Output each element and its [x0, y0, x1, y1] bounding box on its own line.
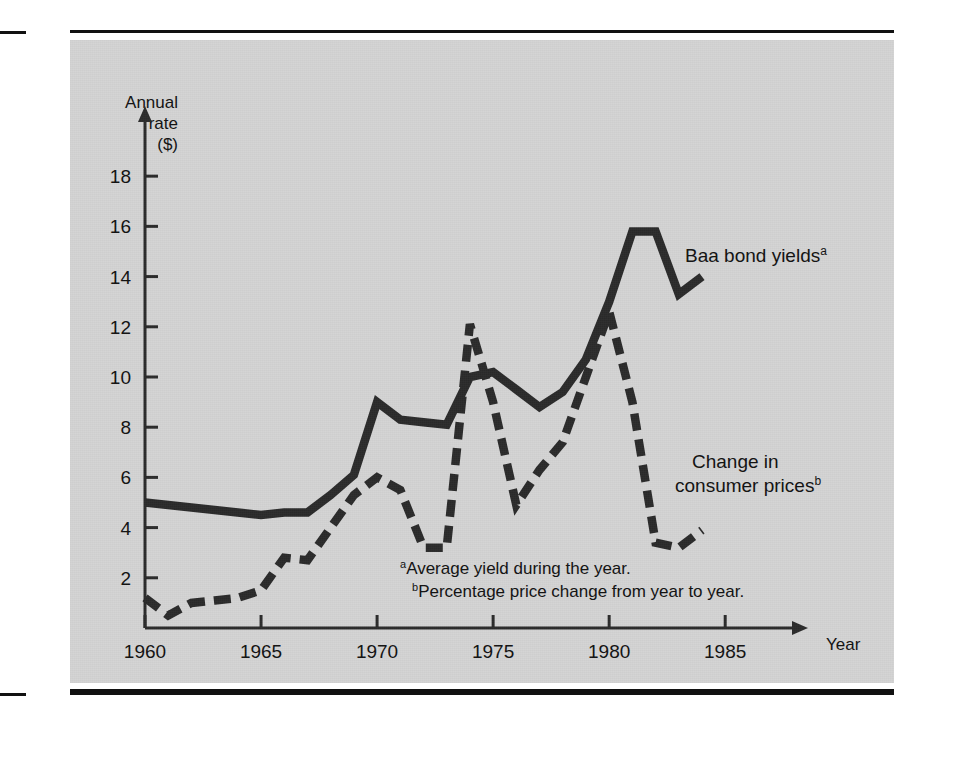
x-tick-label: 1980: [588, 641, 630, 662]
y-tick-label: 4: [120, 518, 131, 539]
y-axis-title-line-2: rate: [149, 114, 178, 133]
x-tick-label: 1985: [704, 641, 746, 662]
annotation-text: consumer prices: [675, 475, 814, 496]
x-tick-label: 1960: [124, 641, 166, 662]
y-tick-label: 14: [110, 267, 132, 288]
margin-rule-top: [0, 31, 26, 34]
chart-panel: Annual rate ($) 246810121416181960196519…: [70, 40, 894, 683]
x-tick-label: 1975: [472, 641, 514, 662]
y-tick-label: 8: [120, 417, 131, 438]
y-tick-label: 12: [110, 317, 131, 338]
margin-rule-bottom: [0, 693, 26, 696]
y-axis-title-line-3: ($): [157, 135, 178, 154]
axes-layer: [138, 106, 808, 635]
chart-svg: Annual rate ($) 246810121416181960196519…: [70, 40, 894, 683]
series-line-baa: [145, 231, 702, 515]
footnote-b: bPercentage price change from year to ye…: [412, 581, 744, 601]
footnote-text: Percentage price change from year to yea…: [418, 582, 744, 601]
series-layer: [145, 231, 702, 615]
x-axis-title: Year: [826, 635, 861, 654]
y-tick-label: 16: [110, 216, 131, 237]
page-canvas: Annual rate ($) 246810121416181960196519…: [0, 0, 964, 759]
y-tick-label: 6: [120, 467, 131, 488]
x-tick-label: 1970: [356, 641, 398, 662]
footnote-a: aAverage yield during the year.: [400, 558, 631, 578]
panel-rule-bottom: [70, 689, 894, 695]
y-tick-label: 10: [110, 367, 131, 388]
x-tick-label: 1965: [240, 641, 282, 662]
footnote-text: Average yield during the year.: [406, 559, 631, 578]
annotation-text: Baa bond yields: [685, 245, 820, 266]
series-label-cpi-line-1: Change in: [692, 451, 779, 472]
annotation-superscript: a: [820, 244, 827, 258]
panel-rule-top: [70, 30, 894, 33]
y-axis-title-line-1: Annual: [125, 93, 178, 112]
line-chart: Annual rate ($) 246810121416181960196519…: [70, 40, 894, 683]
y-tick-label: 18: [110, 166, 131, 187]
y-tick-label: 2: [120, 568, 131, 589]
x-axis-arrow: [792, 621, 808, 635]
series-label-cpi-line-2: consumer pricesb: [675, 474, 821, 496]
annotation-superscript: b: [814, 474, 821, 488]
series-label-baa: Baa bond yieldsa: [685, 244, 827, 266]
